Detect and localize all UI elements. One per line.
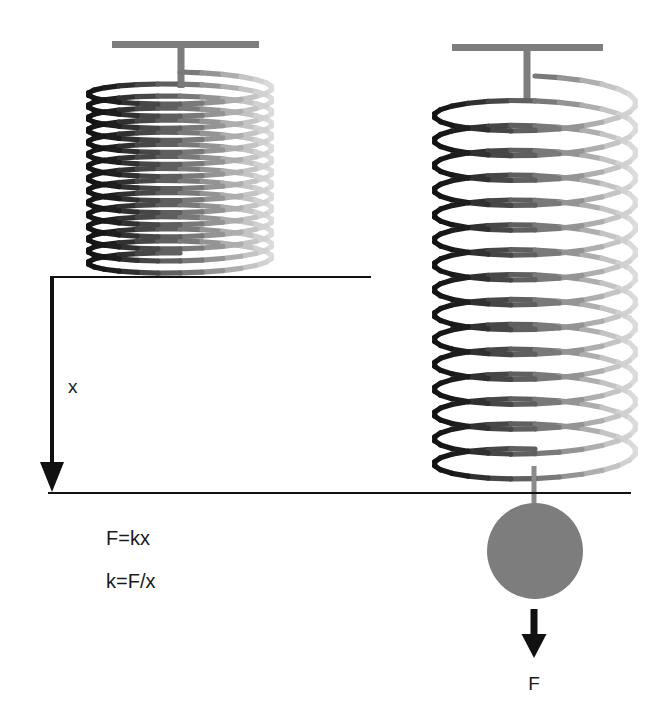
spring-coil-segment <box>223 160 241 162</box>
spring-coil-segment <box>202 230 223 232</box>
spring-coil-segment <box>582 147 602 151</box>
spring-coil-segment <box>488 225 511 226</box>
spring-coil-segment <box>180 144 202 145</box>
spring-coil-segment <box>202 234 223 236</box>
spring-coil-segment <box>582 279 602 283</box>
spring-coil-segment <box>488 354 511 355</box>
spring-coil-segment <box>180 260 202 261</box>
spring-coil-segment <box>202 109 223 111</box>
spring-coil-segment <box>180 193 202 194</box>
spring-coil-segment <box>119 199 137 200</box>
spring-coil-segment <box>559 350 582 353</box>
spring-coil-segment <box>202 198 223 200</box>
relaxed-spring-assembly <box>89 41 272 273</box>
spring-coil-segment <box>119 138 137 139</box>
spring-coil-segment <box>180 127 202 128</box>
spring-coil-segment <box>180 96 202 97</box>
spring-coil-segment <box>119 247 137 248</box>
spring-coil-segment <box>582 155 602 159</box>
spring-coil-segment <box>488 175 511 176</box>
spring-coil-segment <box>488 229 511 230</box>
spring-coil-segment <box>582 346 602 350</box>
spring-coil-segment <box>137 248 158 249</box>
ceiling-mount-bar-relaxed <box>112 41 259 48</box>
spring-coil-segment <box>488 449 511 450</box>
spring-coil-segment <box>119 145 137 146</box>
hanging-mass-ball <box>487 503 583 599</box>
spring-coil-segment <box>559 425 582 428</box>
spring-coil-segment <box>137 103 158 104</box>
displacement-arrow-head <box>40 462 64 492</box>
spring-coil-segment <box>223 111 241 113</box>
spring-coil-segment <box>137 224 158 225</box>
spring-coil-segment <box>137 188 158 189</box>
spring-coil-segment <box>119 97 137 98</box>
spring-coil-segment <box>488 205 511 206</box>
spring-coil-segment <box>119 102 137 103</box>
spring-coil-segment <box>137 140 158 141</box>
spring-coil-segment <box>119 133 137 134</box>
spring-coil-segment <box>582 105 602 109</box>
spring-coil-segment <box>582 304 602 308</box>
spring-coil-segment <box>488 101 511 102</box>
spring-coil-segment <box>468 203 488 205</box>
spring-coil-segment <box>119 254 137 255</box>
spring-coil-segment <box>559 151 582 154</box>
formula-force-equation: F=kx <box>106 527 150 549</box>
spring-coil-segment <box>137 200 158 201</box>
spring-coil-segment <box>468 227 488 229</box>
spring-coil-segment <box>202 114 223 116</box>
spring-coil-segment <box>119 181 137 182</box>
spring-coil-segment <box>559 250 582 253</box>
spring-coil-segment <box>180 188 202 189</box>
formula-stiffness-equation: k=F/x <box>106 570 155 592</box>
spring-coil-segment <box>488 130 511 131</box>
spring-coil-segment <box>137 205 158 206</box>
spring-coil-segment <box>488 275 511 276</box>
spring-coil-segment <box>559 375 582 378</box>
spring-coil-segment <box>180 115 202 116</box>
spring-coil-segment <box>202 222 223 224</box>
spring-coil-segment <box>559 449 582 452</box>
spring-coil-segment <box>119 85 137 86</box>
spring-coil-segment <box>582 222 602 226</box>
spring-coil-segment <box>582 205 602 209</box>
spring-coil-segment <box>488 428 511 429</box>
spring-coil-segment <box>582 254 602 258</box>
spring-coil-segment <box>582 230 602 234</box>
spring-coil-segment <box>137 132 158 133</box>
spring-coil-segment <box>223 256 241 258</box>
spring-coil-segment <box>180 103 202 104</box>
spring-coil-segment <box>202 102 223 104</box>
spring-coil-segment <box>180 181 202 182</box>
spring-coil-segment <box>119 193 137 194</box>
spring-coil-segment <box>202 218 223 220</box>
force-arrow-head <box>522 634 547 658</box>
spring-coil-segment <box>202 73 223 75</box>
spring-coil-segment <box>119 211 137 212</box>
spring-coil-segment <box>180 248 202 249</box>
spring-coil-segment <box>582 329 602 333</box>
spring-coil-segment <box>582 404 602 408</box>
spring-coil-segment <box>119 223 137 224</box>
spring-coil-segment <box>468 101 488 103</box>
spring-coil-segment <box>582 354 602 358</box>
spring-coil-segment <box>535 353 559 355</box>
spring-coil-segment <box>137 212 158 213</box>
spring-coil-segment <box>582 379 602 383</box>
spring-coil-segment <box>468 153 488 155</box>
stretched-spring-assembly <box>435 44 636 599</box>
spring-coil-segment <box>223 244 241 246</box>
spring-coil-segment <box>535 76 559 78</box>
spring-coil-segment <box>137 181 158 182</box>
spring-coil-segment <box>535 228 559 230</box>
spring-coil-segment <box>535 328 559 330</box>
spring-coil-segment <box>202 133 223 135</box>
spring-coil-segment <box>202 194 223 196</box>
spring-coil-segment <box>488 399 511 400</box>
spring-coil-segment <box>488 250 511 251</box>
spring-coil-segment <box>488 374 511 375</box>
spring-coil-segment <box>488 125 511 126</box>
spring-coil-segment <box>223 220 241 222</box>
spring-coil-segment <box>202 97 223 99</box>
